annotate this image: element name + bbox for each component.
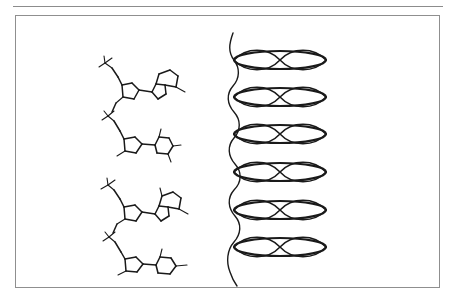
figure-border-box bbox=[15, 15, 440, 288]
header-horizontal-rule bbox=[13, 6, 443, 7]
page-canvas bbox=[0, 0, 456, 306]
